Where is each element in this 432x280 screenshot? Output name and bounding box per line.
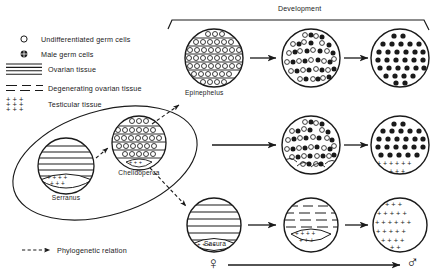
legend-symbol-male-germ-cells — [21, 51, 28, 58]
epinephelus-row-stage-3 — [371, 29, 429, 87]
taxon-label-serranus: Serranus — [25, 194, 107, 201]
legend-symbol-degenerating-ovarian-tissue — [6, 86, 43, 91]
chelidoperca-row-stage-2 — [282, 116, 340, 174]
development-bracket — [168, 20, 429, 30]
svg-text:+ + + + + +: + + + + + + — [377, 160, 411, 167]
svg-text:+ + +: + + + — [6, 105, 24, 114]
legend-label-phylogenetic-relation: Phylogenetic relation — [57, 246, 127, 255]
male-symbol: ♂ — [406, 254, 419, 271]
svg-text:+ + + + + +: + + + + + + — [375, 218, 411, 227]
svg-text:+ + +: + + + — [50, 180, 65, 187]
chelidoperca-row-stage-3: + + + + + + + + + + — [371, 116, 429, 175]
sacura-row-stage-2: + + + + + + + — [284, 198, 338, 252]
figure-canvas: + + + + + + + + + + + + + + + + — [0, 0, 432, 280]
chelidoperca-gonad: + + + — [110, 116, 170, 170]
legend-symbol-ovarian-tissue — [6, 64, 42, 74]
taxon-label-sacura: Sacura — [175, 240, 255, 247]
svg-text:+ + + + +: + + + + + — [376, 227, 406, 236]
ancestral-group-oval — [0, 85, 211, 240]
legend-label-testicular-tissue: Testicular tissue — [48, 100, 102, 109]
legend-label-undifferentiated-germ-cells: Undifferentiated germ cells — [41, 35, 130, 44]
legend-label-degenerating-ovarian-tissue: Degenerating ovarian tissue — [48, 84, 142, 93]
svg-text:+ + + +: + + + + — [295, 230, 316, 237]
legend-symbol-undifferentiated-germ-cells — [21, 36, 27, 42]
development-title: Development — [278, 5, 321, 12]
phylo-arrow-serranus-to-chelidoperca — [96, 148, 108, 158]
epinephelus-row-stage-1 — [183, 29, 246, 87]
epinephelus-row-stage-2 — [282, 29, 340, 87]
legend-label-ovarian-tissue: Ovarian tissue — [48, 65, 96, 74]
sacura-row-stage-3: + + + + + + + + + + + + + + + + + + + + … — [373, 198, 427, 252]
legend-symbol-testicular-tissue: + + + + + + + + + — [6, 95, 24, 114]
svg-text:+ + + + +: + + + + + — [377, 209, 407, 218]
svg-text:+ + +: + + + — [299, 237, 314, 244]
taxon-label-chelidoperca: Chelidoperca — [99, 169, 179, 176]
legend-label-male-germ-cells: Male germ cells — [41, 50, 94, 59]
female-symbol: ♀ — [207, 255, 220, 272]
serranus-gonad: + + + + + + + — [36, 138, 96, 194]
svg-text:+ + +: + + + — [129, 159, 142, 165]
taxon-label-epinephelus: Epinephelus — [185, 89, 224, 96]
